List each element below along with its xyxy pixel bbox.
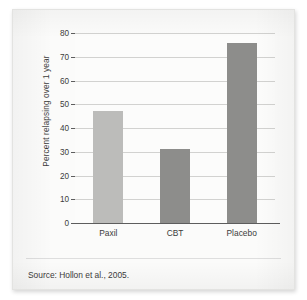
y-axis-tick <box>71 81 75 82</box>
y-axis-tick <box>71 176 75 177</box>
source-note: Source: Hollon et al., 2005. <box>28 270 129 280</box>
y-axis-tick-label: 0 <box>45 219 69 228</box>
x-axis-tick-label-placebo: Placebo <box>227 228 257 238</box>
x-axis-line <box>75 223 280 224</box>
plot-area <box>75 33 275 223</box>
y-axis-tick-label: 30 <box>45 147 69 156</box>
y-axis-tick-label: 80 <box>45 29 69 38</box>
y-axis-tick <box>71 199 75 200</box>
y-axis-tick <box>71 33 75 34</box>
gridline <box>75 33 275 34</box>
figure-page: Percent relapsing over 1 year 0102030405… <box>0 0 307 300</box>
y-axis-tick <box>71 104 75 105</box>
y-axis-tick <box>71 223 75 224</box>
bar-chart: Percent relapsing over 1 year 0102030405… <box>13 10 294 248</box>
bar-cbt <box>160 149 190 223</box>
y-axis-tick-label: 10 <box>45 195 69 204</box>
y-axis-tick-label: 60 <box>45 76 69 85</box>
y-axis-tick-label: 40 <box>45 124 69 133</box>
y-axis-tick-label: 50 <box>45 100 69 109</box>
bar-placebo <box>227 43 257 224</box>
x-axis-tick-label-cbt: CBT <box>167 228 184 238</box>
y-axis-tick-label: 20 <box>45 171 69 180</box>
y-axis-tick <box>71 152 75 153</box>
y-axis-tick-label: 70 <box>45 52 69 61</box>
y-axis-tick <box>71 128 75 129</box>
figure-card: Percent relapsing over 1 year 0102030405… <box>12 9 295 290</box>
y-axis-tick <box>71 57 75 58</box>
bar-paxil <box>93 111 123 223</box>
x-axis-tick-label-paxil: Paxil <box>99 228 117 238</box>
caption-divider <box>26 258 281 259</box>
